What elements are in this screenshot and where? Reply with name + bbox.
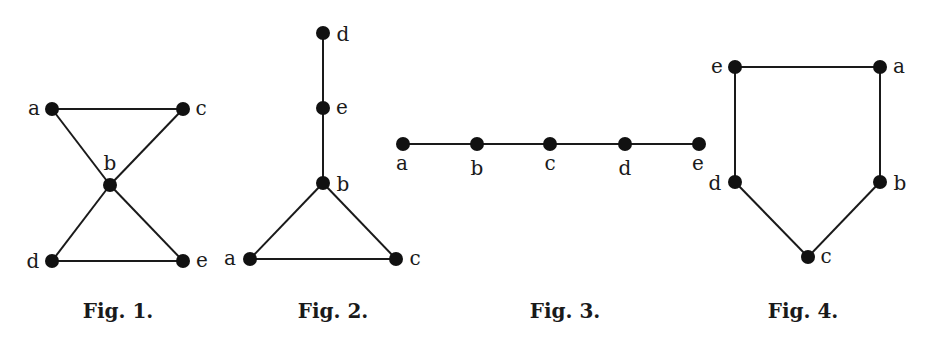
edge-b-a: [250, 183, 323, 259]
edge-c-b: [110, 109, 183, 185]
node-label-a: a: [893, 54, 905, 78]
figure-1: acbdeFig. 1.: [27, 96, 208, 323]
node-label-e: e: [711, 54, 723, 78]
node-b: [873, 175, 887, 189]
node-label-a: a: [224, 246, 236, 270]
edge-b-c: [808, 182, 880, 257]
node-a: [45, 102, 59, 116]
node-e: [316, 101, 330, 115]
node-b: [103, 178, 117, 192]
node-label-c: c: [195, 96, 206, 120]
figure-caption: Fig. 3.: [530, 299, 601, 323]
node-label-e: e: [196, 248, 208, 272]
node-label-e: e: [336, 95, 348, 119]
edge-d-c: [735, 182, 808, 257]
node-c: [801, 250, 815, 264]
figure-4: eadbcFig. 4.: [709, 54, 907, 323]
node-b: [316, 176, 330, 190]
node-label-b: b: [471, 156, 484, 180]
edge-a-b: [52, 109, 110, 185]
node-e: [176, 254, 190, 268]
node-d: [728, 175, 742, 189]
figure-caption: Fig. 1.: [83, 299, 154, 323]
node-label-b: b: [337, 172, 350, 196]
node-label-d: d: [619, 156, 632, 180]
node-label-b: b: [104, 151, 117, 175]
figure-caption: Fig. 4.: [768, 299, 839, 323]
node-c: [389, 252, 403, 266]
node-label-d: d: [709, 171, 722, 195]
edge-b-d: [52, 185, 110, 261]
node-label-e: e: [692, 151, 704, 175]
node-label-c: c: [409, 246, 420, 270]
node-label-a: a: [28, 96, 40, 120]
node-d: [316, 26, 330, 40]
edge-b-e: [110, 185, 183, 261]
node-label-c: c: [544, 151, 555, 175]
node-d: [618, 137, 632, 151]
figure-3: abcdeFig. 3.: [396, 137, 706, 323]
node-b: [470, 137, 484, 151]
node-label-a: a: [396, 151, 408, 175]
node-a: [396, 137, 410, 151]
node-e: [692, 137, 706, 151]
node-label-c: c: [820, 244, 831, 268]
figure-caption: Fig. 2.: [298, 299, 369, 323]
graph-figures-canvas: acbdeFig. 1. debacFig. 2. abcdeFig. 3. e…: [0, 0, 930, 340]
node-c: [176, 102, 190, 116]
node-e: [728, 60, 742, 74]
node-d: [45, 254, 59, 268]
figure-2: debacFig. 2.: [224, 22, 421, 323]
node-c: [543, 137, 557, 151]
node-label-b: b: [894, 171, 907, 195]
edge-b-c: [323, 183, 396, 259]
node-a: [873, 60, 887, 74]
node-a: [243, 252, 257, 266]
node-label-d: d: [27, 249, 40, 273]
node-label-d: d: [337, 22, 350, 46]
